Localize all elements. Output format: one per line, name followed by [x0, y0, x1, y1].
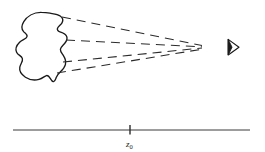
figure-background	[0, 0, 265, 152]
figure-canvas: z0	[0, 0, 265, 152]
axis-tick-label-subscript: 0	[130, 143, 133, 150]
optics-ray-diagram: z0	[0, 0, 265, 152]
